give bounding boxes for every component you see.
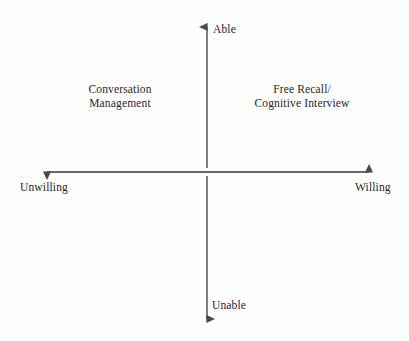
axis-label-unwilling: Unwilling [20,181,68,195]
quadrant-label-upper-right-line-1: Free Recall/ [242,82,362,96]
axis-label-willing: Willing [355,181,391,195]
quadrant-label-upper-right: Free Recall/ Cognitive Interview [242,82,362,110]
quadrant-label-upper-right-line-2: Cognitive Interview [242,96,362,110]
axis-label-unable: Unable [212,299,246,313]
quadrant-diagram: Able Unable Unwilling Willing Conversati… [0,0,409,341]
quadrant-label-upper-left: Conversation Management [60,82,180,110]
axes-graphic [0,0,409,341]
quadrant-label-upper-left-line-2: Management [60,96,180,110]
quadrant-label-upper-left-line-1: Conversation [60,82,180,96]
axis-label-able: Able [213,23,236,37]
